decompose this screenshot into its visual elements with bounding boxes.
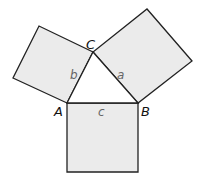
side-label-b: b bbox=[70, 68, 78, 82]
side-label-c: c bbox=[98, 105, 105, 119]
vertex-label-a: A bbox=[53, 104, 63, 119]
vertex-label-c: C bbox=[86, 37, 96, 52]
pythagorean-diagram: C A B b a c bbox=[0, 0, 201, 181]
vertex-label-b: B bbox=[141, 104, 150, 119]
side-label-a: a bbox=[117, 68, 124, 82]
